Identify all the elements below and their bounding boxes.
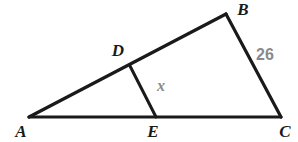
side-length-label-bc: 26 <box>256 46 274 63</box>
segment-bc <box>226 14 281 117</box>
vertex-label-a: A <box>14 122 26 141</box>
vertex-label-d: D <box>111 41 124 60</box>
triangle-diagram-canvas: A B C D E 26 x <box>0 0 298 142</box>
segment-ab <box>29 14 226 117</box>
vertex-label-c: C <box>279 122 291 141</box>
vertex-label-e: E <box>146 122 158 141</box>
segment-de <box>130 66 156 117</box>
side-length-label-de: x <box>156 77 165 94</box>
geometry-figure: A B C D E 26 x <box>0 0 298 142</box>
vertex-label-b: B <box>236 0 248 19</box>
